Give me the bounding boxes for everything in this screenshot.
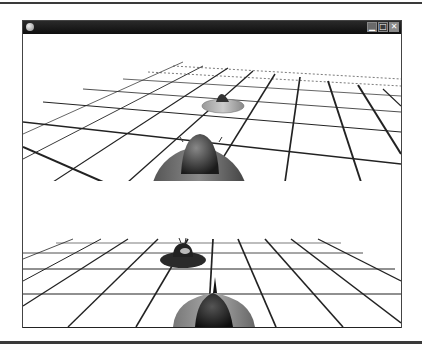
top-divider xyxy=(0,2,422,4)
scene-3d-bottom xyxy=(23,181,401,327)
titlebar[interactable]: ▁ □ ✕ xyxy=(23,21,401,34)
minimize-icon: ▁ xyxy=(368,21,376,33)
player-1-viewport[interactable] xyxy=(23,34,401,182)
game-window: ▁ □ ✕ xyxy=(22,20,402,328)
player-saucer-ship xyxy=(153,134,245,182)
close-icon: ✕ xyxy=(390,21,398,33)
close-button[interactable]: ✕ xyxy=(389,22,399,32)
player-2-viewport[interactable] xyxy=(23,181,401,328)
scene-3d-top xyxy=(23,34,401,182)
bottom-divider xyxy=(0,341,422,344)
minimize-button[interactable]: ▁ xyxy=(367,22,377,32)
maximize-icon: □ xyxy=(379,21,387,33)
app-icon[interactable] xyxy=(26,23,34,31)
player-ship xyxy=(173,277,255,327)
maximize-button[interactable]: □ xyxy=(378,22,388,32)
distant-saucer-ship xyxy=(202,94,244,113)
